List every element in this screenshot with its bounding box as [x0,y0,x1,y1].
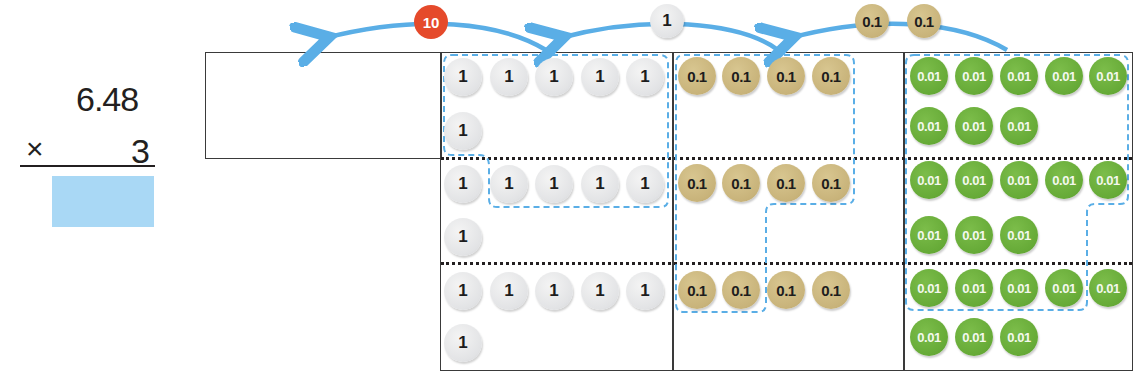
one-chip: 1 [490,272,528,310]
tenth-chip: 0.1 [722,164,760,202]
tenth-chip: 0.1 [678,271,716,309]
hundredth-chip: 0.01 [1000,269,1038,307]
hundredth-chip: 0.01 [955,107,993,145]
one-chip: 1 [444,58,482,96]
hundredth-chip: 0.01 [1000,57,1038,95]
one-chip: 1 [581,165,619,203]
one-chip: 1 [626,272,664,310]
one-chip: 1 [535,58,573,96]
hundredth-chip: 0.01 [1000,216,1038,254]
hundredth-chip: 0.01 [955,57,993,95]
tenth-chip-carry: 0.1 [907,4,941,38]
tenth-chip: 0.1 [767,164,805,202]
hundredth-chip: 0.01 [910,161,948,199]
hundredth-chip: 0.01 [1089,161,1127,199]
one-chip: 1 [444,272,482,310]
hundredth-chip: 0.01 [955,161,993,199]
hundredth-chip: 0.01 [1089,269,1127,307]
one-chip: 1 [626,58,664,96]
one-chip: 1 [444,218,482,256]
tenth-chip: 0.1 [767,57,805,95]
one-chip: 1 [581,272,619,310]
tenth-chip: 0.1 [767,271,805,309]
arrow-hundredths-to-tenths [790,24,1007,50]
one-chip: 1 [490,58,528,96]
one-chip: 1 [444,165,482,203]
hundredth-chip: 0.01 [1045,57,1083,95]
ten-chip: 10 [414,5,448,39]
one-chip: 1 [444,324,482,362]
one-chip: 1 [444,112,482,150]
one-chip: 1 [490,165,528,203]
hundredth-chip: 0.01 [955,318,993,356]
hundredth-chip: 0.01 [955,269,993,307]
tenth-chip-carry: 0.1 [855,4,889,38]
tenth-chip: 0.1 [722,271,760,309]
one-chip: 1 [581,58,619,96]
tenth-chip: 0.1 [812,271,850,309]
hundredth-chip: 0.01 [910,57,948,95]
one-chip: 1 [535,272,573,310]
hundredth-chip: 0.01 [1000,318,1038,356]
hundredth-chip: 0.01 [955,216,993,254]
hundredth-chip: 0.01 [1045,269,1083,307]
tenth-chip: 0.1 [678,57,716,95]
hundredth-chip: 0.01 [1000,161,1038,199]
hundredth-chip: 0.01 [910,269,948,307]
hundredth-chip: 0.01 [1000,107,1038,145]
hundredth-chip: 0.01 [1089,57,1127,95]
tenth-chip: 0.1 [722,57,760,95]
hundredth-chip: 0.01 [910,216,948,254]
tenth-chip: 0.1 [812,57,850,95]
one-chip: 1 [626,165,664,203]
tenth-chip: 0.1 [678,164,716,202]
hundredth-chip: 0.01 [1045,161,1083,199]
tenth-chip: 0.1 [812,164,850,202]
one-chip-carry: 1 [650,4,684,38]
hundredth-chip: 0.01 [910,107,948,145]
one-chip: 1 [535,165,573,203]
hundredth-chip: 0.01 [910,318,948,356]
